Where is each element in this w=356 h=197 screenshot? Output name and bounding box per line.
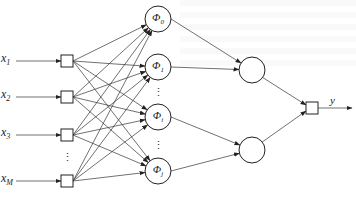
input-label-x3: x3 <box>1 126 10 141</box>
middle-to-output-edge <box>262 111 306 142</box>
middle-node <box>239 57 265 83</box>
hidden-node-label: Φj <box>153 164 163 178</box>
network-diagram <box>0 0 356 197</box>
hidden-to-middle-edge <box>171 153 239 171</box>
hidden-node-label: Φi <box>153 110 163 124</box>
input-to-hidden-edge <box>73 25 146 61</box>
input-ellipsis: ⋮ <box>62 152 73 163</box>
hidden-to-middle-edge <box>171 117 240 145</box>
input-to-hidden-edge <box>73 173 145 181</box>
input-node-box <box>61 175 73 187</box>
input-to-hidden-edge <box>73 61 147 110</box>
input-node-box <box>61 129 73 141</box>
hidden-to-middle-edge <box>171 19 241 63</box>
input-node-box <box>61 55 73 67</box>
middle-node <box>239 137 265 163</box>
input-to-hidden-edge <box>73 125 148 181</box>
hidden-to-middle-edge <box>171 67 239 70</box>
hidden-ellipsis: ⋮ <box>153 140 164 151</box>
input-node-box <box>61 91 73 103</box>
hidden-node-label: Φ1 <box>152 60 164 74</box>
input-to-hidden-edge <box>73 28 148 97</box>
hidden-node-label: Φ0 <box>152 12 164 26</box>
input-to-hidden-edge <box>73 61 150 161</box>
middle-to-output-edge <box>263 77 306 105</box>
hidden-ellipsis: ⋮ <box>153 87 164 98</box>
input-to-hidden-edge <box>73 135 146 166</box>
input-to-hidden-edge <box>73 31 152 181</box>
input-label-xM: xM <box>1 172 13 187</box>
output-node-box <box>306 102 318 114</box>
output-label-y: y <box>330 95 335 106</box>
input-label-x1: x1 <box>1 52 10 67</box>
input-label-x2: x2 <box>1 88 10 103</box>
